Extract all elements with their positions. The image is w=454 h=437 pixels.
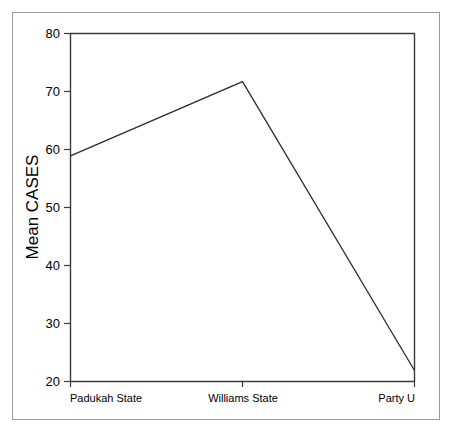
chart-figure: 80 70 60 50 40 30 20 Padukah State Willi…: [0, 0, 454, 437]
y-tick-label-40: 40: [46, 258, 60, 273]
y-tick-label-50: 50: [46, 200, 60, 215]
y-axis-title: Mean CASES: [23, 155, 42, 260]
y-tick-label-30: 30: [46, 316, 60, 331]
line-chart-plot: 80 70 60 50 40 30 20 Padukah State Willi…: [0, 0, 454, 437]
y-tick-label-60: 60: [46, 142, 60, 157]
x-category-label-party-u: Party U: [378, 392, 415, 404]
x-category-label-padukah-state: Padukah State: [70, 392, 142, 404]
plot-background: [70, 33, 415, 381]
y-tick-label-80: 80: [46, 26, 60, 41]
x-category-label-williams-state: Williams State: [208, 392, 278, 404]
y-tick-label-20: 20: [46, 374, 60, 389]
y-tick-label-70: 70: [46, 84, 60, 99]
